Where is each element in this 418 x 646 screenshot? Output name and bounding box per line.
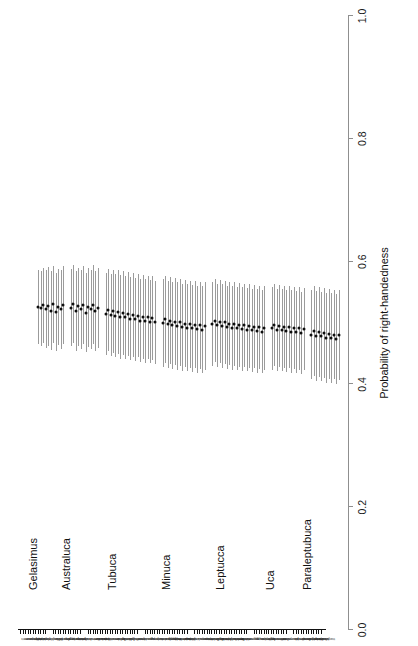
- x-tick: [348, 383, 353, 384]
- point-estimate: [335, 337, 338, 340]
- point-estimate: [245, 328, 248, 331]
- y-tick: [70, 629, 71, 634]
- point-estimate: [255, 329, 258, 332]
- y-tick: [45, 629, 46, 634]
- y-tick: [303, 629, 304, 634]
- y-tick: [159, 629, 160, 634]
- genus-label: Gelasimus: [27, 538, 39, 590]
- y-tick: [88, 629, 89, 634]
- y-tick: [216, 629, 217, 634]
- y-tick: [254, 629, 255, 634]
- y-tick: [316, 629, 317, 634]
- y-tick: [301, 629, 302, 634]
- point-estimate: [79, 307, 82, 310]
- x-tick: [348, 629, 353, 630]
- point-estimate: [129, 317, 132, 320]
- point-estimate: [238, 323, 241, 326]
- point-estimate: [292, 326, 295, 329]
- point-estimate: [188, 323, 191, 326]
- point-estimate: [198, 324, 201, 327]
- y-tick: [30, 629, 31, 634]
- point-estimate: [47, 305, 50, 308]
- y-tick: [100, 629, 101, 634]
- y-tick: [313, 629, 314, 634]
- y-tick: [137, 629, 138, 634]
- y-tick: [23, 629, 24, 634]
- point-estimate: [302, 328, 305, 331]
- point-estimate: [116, 310, 119, 313]
- y-tick: [65, 629, 66, 634]
- y-tick: [172, 629, 173, 634]
- point-estimate: [211, 323, 214, 326]
- point-estimate: [119, 315, 122, 318]
- y-tick: [264, 629, 265, 634]
- y-tick: [152, 629, 153, 634]
- y-tick: [25, 629, 26, 634]
- x-tick-label: 0.4: [356, 377, 368, 392]
- point-estimate: [216, 324, 219, 327]
- point-estimate: [139, 319, 142, 322]
- point-estimate: [270, 327, 273, 330]
- point-estimate: [82, 304, 85, 307]
- point-estimate: [178, 321, 181, 324]
- y-tick: [211, 629, 212, 634]
- point-estimate: [171, 324, 174, 327]
- y-tick: [167, 629, 168, 634]
- y-tick: [246, 629, 247, 634]
- point-estimate: [173, 320, 176, 323]
- genus-label: Leptucca: [214, 545, 226, 590]
- point-estimate: [322, 331, 325, 334]
- x-tick-label: 1.0: [356, 9, 368, 24]
- y-tick: [90, 629, 91, 634]
- point-estimate: [196, 328, 199, 331]
- point-estimate: [223, 321, 226, 324]
- y-tick: [60, 629, 61, 634]
- x-tick-label: 0.6: [356, 254, 368, 269]
- genus-label: Australuca: [60, 538, 72, 590]
- y-tick: [162, 629, 163, 634]
- y-tick: [311, 629, 312, 634]
- y-tick: [117, 629, 118, 634]
- point-estimate: [280, 329, 283, 332]
- y-tick: [241, 629, 242, 634]
- point-estimate: [213, 319, 216, 322]
- point-estimate: [218, 320, 221, 323]
- y-tick: [261, 629, 262, 634]
- point-estimate: [42, 304, 45, 307]
- y-tick: [75, 629, 76, 634]
- y-tick: [107, 629, 108, 634]
- point-estimate: [136, 314, 139, 317]
- plot-stage: 0.00.20.40.60.81.0 vomerisvocanstetragon…: [0, 0, 418, 646]
- y-tick: [179, 629, 180, 634]
- point-estimate: [121, 312, 124, 315]
- x-tick-label: 0.8: [356, 132, 368, 147]
- y-tick: [224, 629, 225, 634]
- point-estimate: [300, 331, 303, 334]
- y-tick: [33, 629, 34, 634]
- y-tick: [281, 629, 282, 634]
- x-tick: [348, 506, 353, 507]
- point-estimate: [114, 314, 117, 317]
- point-estimate: [166, 323, 169, 326]
- x-tick: [348, 261, 353, 262]
- point-estimate: [337, 334, 340, 337]
- point-estimate: [285, 329, 288, 332]
- genus-label: Paraleptubuca: [301, 519, 313, 590]
- y-tick: [150, 629, 151, 634]
- y-tick: [209, 629, 210, 634]
- y-tick: [321, 629, 322, 634]
- point-estimate: [111, 310, 114, 313]
- point-estimate: [183, 322, 186, 325]
- y-tick: [20, 629, 21, 634]
- y-tick: [231, 629, 232, 634]
- y-tick: [93, 629, 94, 634]
- y-tick: [164, 629, 165, 634]
- point-estimate: [134, 318, 137, 321]
- y-tick: [134, 629, 135, 634]
- y-tick: [73, 629, 74, 634]
- point-estimate: [69, 306, 72, 309]
- y-tick: [122, 629, 123, 634]
- point-estimate: [161, 321, 164, 324]
- y-tick: [214, 629, 215, 634]
- point-estimate: [235, 327, 238, 330]
